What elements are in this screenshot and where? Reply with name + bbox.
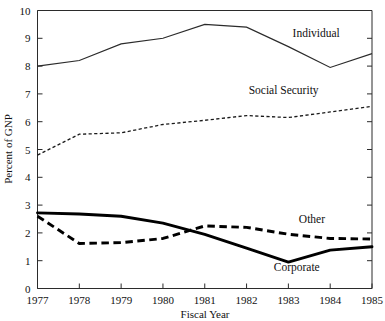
- x-tick-label: 1982: [236, 294, 258, 306]
- series-label-other: Other: [299, 213, 325, 225]
- y-tick-label: 4: [25, 171, 31, 183]
- chart-axes: [38, 11, 373, 289]
- y-tick-label: 7: [25, 88, 31, 100]
- y-tick-label: 5: [25, 144, 31, 156]
- y-tick-label: 1: [25, 255, 31, 267]
- y-tick-label: 6: [25, 116, 31, 128]
- x-tick-label: 1985: [361, 294, 384, 306]
- x-tick-label: 1978: [68, 294, 91, 306]
- x-tick-label: 1984: [319, 294, 342, 306]
- plot-frame: [38, 11, 373, 289]
- axis-ticks: [38, 11, 373, 289]
- line-chart: 012345678910 197719781979198019811982198…: [0, 0, 385, 321]
- x-tick-label: 1979: [110, 294, 133, 306]
- series-label-social-security: Social Security: [249, 84, 319, 97]
- chart-container: 012345678910 197719781979198019811982198…: [0, 0, 385, 321]
- x-tick-label: 1981: [194, 294, 216, 306]
- x-axis-tick-labels: 197719781979198019811982198319841985: [27, 294, 384, 306]
- y-axis-tick-labels: 012345678910: [20, 5, 32, 295]
- y-tick-label: 3: [25, 199, 31, 211]
- y-tick-label: 2: [25, 227, 31, 239]
- data-series-group: [38, 24, 373, 262]
- series-line-social-security: [38, 106, 373, 155]
- series-label-individual: Individual: [293, 27, 340, 39]
- y-tick-label: 9: [25, 32, 31, 44]
- series-label-corporate: Corporate: [274, 261, 320, 274]
- y-tick-label: 8: [25, 60, 31, 72]
- x-tick-label: 1980: [152, 294, 175, 306]
- y-axis-title: Percent of GNP: [2, 114, 14, 184]
- y-tick-label: 10: [20, 5, 32, 17]
- x-axis-title: Fiscal Year: [181, 308, 230, 320]
- series-label-group: IndividualSocial SecurityOtherCorporate: [249, 27, 340, 274]
- x-tick-label: 1983: [277, 294, 300, 306]
- x-tick-label: 1977: [27, 294, 50, 306]
